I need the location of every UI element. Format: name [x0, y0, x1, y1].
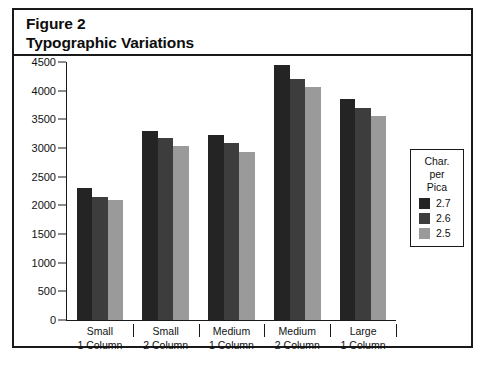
bar[interactable] — [305, 87, 321, 320]
x-tick-label-line-2: 2 Column — [264, 338, 330, 352]
bars-area — [67, 62, 396, 320]
y-axis: 050010001500200025003000350040004500 — [14, 62, 66, 320]
y-tick-mark — [58, 291, 66, 292]
y-tick-mark — [58, 205, 66, 206]
bar-group — [264, 62, 330, 320]
bar[interactable] — [290, 79, 306, 320]
legend-label: 2.7 — [436, 197, 451, 209]
x-tick-label-line-2: 1 Column — [330, 338, 396, 352]
bar[interactable] — [340, 99, 356, 320]
x-tick-label: Medium2 Column — [264, 324, 330, 352]
bar[interactable] — [77, 188, 93, 320]
bar[interactable] — [173, 146, 189, 320]
x-tick-label: Small1 Column — [67, 324, 133, 352]
y-tick-label: 1000 — [32, 257, 56, 269]
y-tick-mark — [58, 148, 66, 149]
y-tick-mark — [58, 62, 66, 63]
y-tick-mark — [58, 176, 66, 177]
figure-frame: Figure 2 Typographic Variations 05001000… — [12, 8, 473, 348]
bar-group — [330, 62, 396, 320]
legend-entry[interactable]: 2.6 — [419, 212, 463, 224]
x-axis-separator — [330, 324, 331, 337]
x-axis-separator — [199, 324, 200, 337]
bar[interactable] — [142, 131, 158, 320]
y-tick-mark — [58, 119, 66, 120]
bar[interactable] — [274, 65, 290, 320]
figure-number: Figure 2 — [26, 14, 471, 33]
legend-entry[interactable]: 2.7 — [419, 197, 463, 209]
legend-title-line-2: per — [411, 168, 463, 181]
x-axis: Small1 ColumnSmall2 ColumnMedium1 Column… — [67, 322, 396, 362]
legend-label: 2.5 — [436, 227, 451, 239]
y-tick-label: 3500 — [32, 113, 56, 125]
legend-entries: 2.72.62.5 — [411, 197, 463, 239]
x-axis-separator — [133, 324, 134, 337]
plot-region: 050010001500200025003000350040004500 Sma… — [14, 56, 471, 346]
x-axis-separator — [396, 324, 397, 337]
y-tick-label: 4000 — [32, 85, 56, 97]
bar[interactable] — [108, 200, 124, 320]
x-tick-label-line-1: Medium — [264, 324, 330, 338]
bar-group — [67, 62, 133, 320]
x-tick-label-line-1: Small — [133, 324, 199, 338]
legend-swatch-icon — [419, 213, 430, 224]
y-tick-label: 500 — [38, 285, 56, 297]
y-tick-mark — [58, 262, 66, 263]
y-tick-label: 0 — [50, 314, 56, 326]
bar[interactable] — [158, 138, 174, 320]
legend-swatch-icon — [419, 228, 430, 239]
x-tick-label: Large1 Column — [330, 324, 396, 352]
bar[interactable] — [355, 108, 371, 320]
x-tick-label-line-2: 2 Column — [133, 338, 199, 352]
x-tick-label-line-1: Medium — [199, 324, 265, 338]
bar[interactable] — [224, 143, 240, 320]
figure-title: Typographic Variations — [26, 33, 471, 52]
x-tick-label-line-1: Large — [330, 324, 396, 338]
x-axis-separator — [264, 324, 265, 337]
bar-group — [133, 62, 199, 320]
y-tick-mark — [58, 90, 66, 91]
figure-title-block: Figure 2 Typographic Variations — [14, 10, 471, 56]
y-tick-label: 2000 — [32, 199, 56, 211]
x-tick-label-line-1: Small — [67, 324, 133, 338]
bar[interactable] — [208, 135, 224, 320]
y-tick-label: 2500 — [32, 171, 56, 183]
y-tick-label: 4500 — [32, 56, 56, 68]
x-tick-label: Small2 Column — [133, 324, 199, 352]
legend-title-line-1: Char. — [411, 155, 463, 168]
y-tick-mark — [58, 234, 66, 235]
bar-group — [199, 62, 265, 320]
bar[interactable] — [239, 152, 255, 320]
x-tick-label-line-2: 1 Column — [199, 338, 265, 352]
legend-label: 2.6 — [436, 212, 451, 224]
x-tick-label-line-2: 1 Column — [67, 338, 133, 352]
x-tick-label: Medium1 Column — [199, 324, 265, 352]
chart-legend: Char. per Pica 2.72.62.5 — [410, 149, 464, 247]
x-axis-spine — [66, 320, 396, 321]
y-tick-mark — [58, 320, 66, 321]
legend-swatch-icon — [419, 198, 430, 209]
y-tick-label: 3000 — [32, 142, 56, 154]
legend-entry[interactable]: 2.5 — [419, 227, 463, 239]
bar[interactable] — [371, 116, 387, 320]
legend-title-line-3: Pica — [411, 181, 463, 194]
y-tick-label: 1500 — [32, 228, 56, 240]
bar[interactable] — [92, 197, 108, 320]
